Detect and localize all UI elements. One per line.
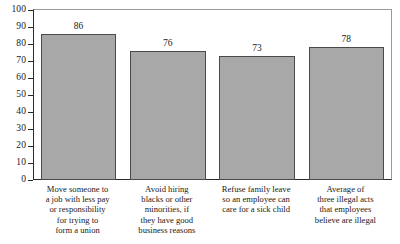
x-category-label-line: that employees — [301, 204, 390, 214]
bar-value-label: 73 — [219, 44, 294, 54]
x-category-label-line: business reasons — [122, 225, 211, 235]
y-tick-label: 60 — [0, 73, 26, 83]
x-category-label-line: form a union — [33, 225, 122, 235]
x-category-label: Refuse family leaveso an employee cancar… — [212, 184, 301, 215]
x-category-label-line: for trying to — [33, 215, 122, 225]
bar — [41, 34, 116, 180]
bar — [219, 56, 294, 180]
x-category-label-line: Refuse family leave — [212, 184, 301, 194]
bar — [130, 51, 205, 180]
bars-layer: 86767378 — [34, 10, 391, 180]
x-category-label-line: Average of — [301, 184, 390, 194]
y-tick-label: 50 — [0, 90, 26, 100]
bar-value-label: 76 — [130, 39, 205, 49]
x-category-label-line: they have good — [122, 215, 211, 225]
x-category-label-line: a job with less pay — [33, 194, 122, 204]
x-axis-labels: Move someone toa job with less payor res… — [33, 184, 392, 244]
x-category-label-line: believe are illegal — [301, 215, 390, 225]
y-axis: 0102030405060708090100 — [0, 0, 26, 190]
y-tick-label: 90 — [0, 22, 26, 32]
y-tick-label: 30 — [0, 124, 26, 134]
y-tick-label: 100 — [0, 5, 26, 15]
bar-value-label: 86 — [41, 22, 116, 32]
x-category-label-line: blacks or other — [122, 194, 211, 204]
x-category-label: Average ofthree illegal actsthat employe… — [301, 184, 390, 225]
bar — [309, 47, 384, 180]
bar-value-label: 78 — [309, 35, 384, 45]
y-tick-label: 80 — [0, 39, 26, 49]
x-category-label-line: minorities, if — [122, 204, 211, 214]
y-tick-label: 20 — [0, 141, 26, 151]
x-category-label-line: Avoid hiring — [122, 184, 211, 194]
y-tick-label: 10 — [0, 158, 26, 168]
y-tick-label: 40 — [0, 107, 26, 117]
x-category-label-line: or responsibility — [33, 204, 122, 214]
x-category-label: Avoid hiringblacks or otherminorities, i… — [122, 184, 211, 235]
y-tick-label: 0 — [0, 175, 26, 185]
x-category-label-line: Move someone to — [33, 184, 122, 194]
y-tick-mark — [28, 180, 33, 181]
y-tick-label: 70 — [0, 56, 26, 66]
bar-chart: 0102030405060708090100 86767378 Move som… — [0, 0, 400, 244]
x-category-label-line: care for a sick child — [212, 204, 301, 214]
x-category-label-line: so an employee can — [212, 194, 301, 204]
x-category-label: Move someone toa job with less payor res… — [33, 184, 122, 235]
x-category-label-line: three illegal acts — [301, 194, 390, 204]
